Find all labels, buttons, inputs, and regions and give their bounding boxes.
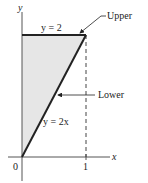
origin-label: 0 bbox=[13, 161, 18, 172]
region-diagram: y x 0 1 y = 2 y = 2x Upper Lower bbox=[0, 0, 148, 183]
y-axis-label: y bbox=[17, 2, 23, 13]
x-tick-label-1: 1 bbox=[83, 161, 88, 172]
upper-equation-label: y = 2 bbox=[41, 22, 62, 33]
x-axis-label: x bbox=[111, 151, 117, 162]
upper-callout-leader bbox=[80, 16, 101, 33]
lower-equation-label: y = 2x bbox=[43, 116, 69, 127]
lower-callout-label: Lower bbox=[98, 89, 125, 100]
upper-callout-label: Upper bbox=[107, 10, 133, 21]
